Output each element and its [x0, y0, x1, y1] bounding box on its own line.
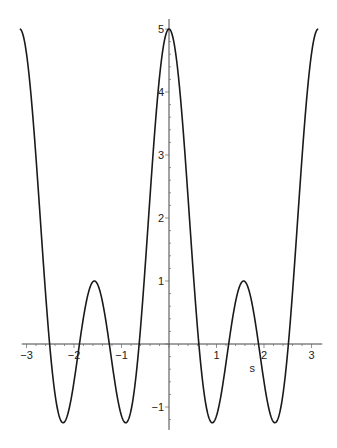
x-tick-label: 2	[261, 349, 267, 361]
y-tick-label: 3	[158, 149, 164, 161]
x-tick-label: −3	[20, 349, 33, 361]
x-tick-label: 1	[213, 349, 219, 361]
x-tick-label: 3	[308, 349, 314, 361]
x-tick-label: −1	[115, 349, 128, 361]
y-tick-label: 5	[158, 23, 164, 35]
x-axis-label: s	[249, 362, 255, 374]
y-tick-label: 1	[158, 275, 164, 287]
y-tick-label: 2	[158, 212, 164, 224]
axes	[22, 19, 322, 430]
function-plot: −3−2−1123−112345 s	[0, 0, 337, 448]
y-tick-label: −1	[151, 401, 164, 413]
